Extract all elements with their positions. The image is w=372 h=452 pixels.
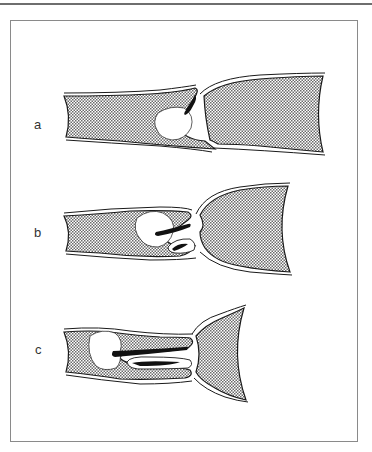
- panel-a-drawing: [64, 73, 325, 155]
- panel-b-drawing: [64, 183, 292, 275]
- intussusception-diagram: [0, 0, 372, 452]
- panel-c-drawing: [64, 305, 248, 402]
